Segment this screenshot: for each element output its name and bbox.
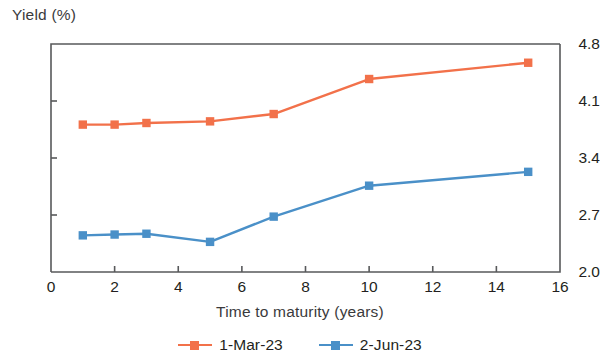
series-marker-1 [524,168,532,176]
series-marker-1 [110,230,118,238]
legend-label: 2-Jun-23 [360,336,422,354]
series-marker-0 [206,117,214,125]
series-marker-0 [110,120,118,128]
legend-item[interactable]: 1-Mar-23 [178,336,283,354]
series-marker-0 [524,59,532,67]
series-marker-0 [269,110,277,118]
axis-frame-bottom-right [51,44,560,272]
series-marker-1 [142,230,150,238]
x-axis-title: Time to maturity (years) [0,303,600,321]
series-marker-1 [269,212,277,220]
legend-swatch [319,339,353,351]
series-marker-1 [365,181,373,189]
legend-swatch [178,339,212,351]
yield-curve-chart: Yield (%) 2.02.73.44.14.8 0246810121416 … [0,0,600,363]
series-marker-0 [142,119,150,127]
legend-label: 1-Mar-23 [219,336,283,354]
axis-frame-top-left [51,44,560,272]
square-marker-icon [190,341,199,350]
series-marker-0 [365,75,373,83]
series-marker-0 [79,120,87,128]
series-line-0 [83,63,528,125]
series-marker-1 [206,238,214,246]
legend-item[interactable]: 2-Jun-23 [319,336,422,354]
square-marker-icon [331,341,340,350]
chart-legend: 1-Mar-232-Jun-23 [0,336,600,354]
series-marker-1 [79,231,87,239]
